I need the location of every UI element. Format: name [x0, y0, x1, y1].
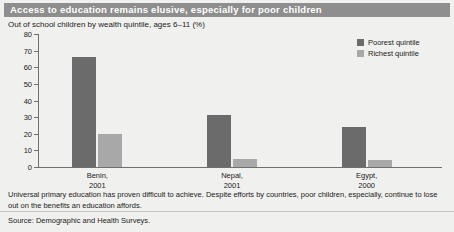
y-axis-tick — [34, 117, 38, 118]
divider — [0, 211, 454, 212]
bar — [72, 57, 96, 167]
x-axis-category-label: Nepal,2001 — [192, 171, 272, 190]
legend-label: Richest quintile — [368, 49, 419, 58]
y-axis-tick — [34, 134, 38, 135]
y-axis-tick-label: 20 — [24, 129, 32, 138]
bar — [368, 160, 392, 167]
y-axis-tick-label: 50 — [24, 79, 32, 88]
bar — [342, 127, 366, 167]
y-axis-tick-label: 70 — [24, 46, 32, 55]
chart-caption: Universal primary education has proven d… — [8, 190, 444, 211]
y-axis-tick-label: 10 — [24, 146, 32, 155]
y-axis-tick-label: 0 — [28, 163, 32, 172]
y-axis-tick-label: 30 — [24, 113, 32, 122]
x-axis-category-label-line: 2001 — [192, 181, 272, 191]
y-axis-tick — [34, 34, 38, 35]
y-axis-tick-label: 80 — [24, 30, 32, 39]
bar — [98, 134, 122, 167]
y-axis-tick — [34, 84, 38, 85]
x-axis-category-label: Benin,2001 — [57, 171, 137, 190]
page-title: Access to education remains elusive, esp… — [10, 4, 322, 15]
y-axis-line — [38, 34, 39, 168]
y-axis-tick-label: 60 — [24, 63, 32, 72]
y-axis-tick — [34, 51, 38, 52]
chart-legend: Poorest quintileRichest quintile — [357, 33, 420, 55]
x-axis-category-label-line: 2001 — [57, 181, 137, 191]
y-axis-tick — [34, 150, 38, 151]
chart-figure: Access to education remains elusive, esp… — [0, 0, 454, 232]
source-note: Source: Demographic and Health Surveys. — [8, 216, 150, 225]
chart-subtitle: Out of school children by wealth quintil… — [8, 20, 205, 29]
legend-item: Richest quintile — [357, 44, 420, 55]
bar — [233, 159, 257, 167]
x-axis-category-label-line: Benin, — [57, 171, 137, 181]
legend-item: Poorest quintile — [357, 33, 420, 44]
x-axis-category-label-line: Nepal, — [192, 171, 272, 181]
x-axis-category-label: Egypt,2000 — [327, 171, 407, 190]
y-axis-tick — [34, 101, 38, 102]
y-axis-tick — [34, 167, 38, 168]
y-axis-tick — [34, 67, 38, 68]
x-axis-category-label-line: Egypt, — [327, 171, 407, 181]
x-axis-line — [38, 167, 442, 168]
legend-swatch — [357, 50, 364, 57]
bar — [207, 115, 231, 167]
x-axis-category-label-line: 2000 — [327, 181, 407, 191]
title-banner: Access to education remains elusive, esp… — [4, 3, 450, 17]
y-axis-tick-label: 40 — [24, 96, 32, 105]
